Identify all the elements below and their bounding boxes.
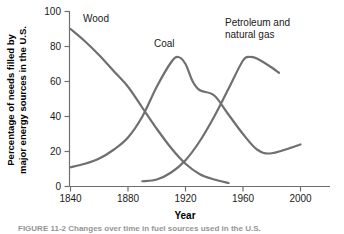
x-axis-title: Year [174, 210, 195, 221]
y-tick-label-60: 60 [50, 76, 62, 87]
y-axis-title: Percentage of needs filled by major ener… [5, 26, 28, 174]
x-tick-label-1920: 1920 [174, 193, 197, 204]
y-axis-title-line1: Percentage of needs filled by [5, 34, 16, 166]
y-tick-label-20: 20 [50, 146, 62, 157]
x-axis-ticks: 1840 1880 1920 1960 2000 [59, 187, 312, 205]
series-curves [71, 29, 301, 183]
series-label-coal: Coal [154, 38, 175, 49]
energy-sources-line-chart: Percentage of needs filled by major ener… [0, 0, 344, 234]
x-tick-label-1880: 1880 [117, 193, 140, 204]
figure-caption: FIGURE 11-2 Changes over time in fuel so… [0, 225, 344, 234]
y-tick-label-0: 0 [55, 181, 61, 192]
x-tick-label-1840: 1840 [59, 193, 82, 204]
y-tick-label-40: 40 [50, 111, 62, 122]
x-tick-label-2000: 2000 [289, 193, 312, 204]
y-tick-label-100: 100 [44, 6, 61, 17]
y-tick-label-80: 80 [50, 41, 62, 52]
x-tick-label-1960: 1960 [232, 193, 255, 204]
series-curve-coal [71, 57, 301, 167]
y-axis-ticks: 100 80 60 40 20 0 [44, 6, 69, 192]
chart-svg: Percentage of needs filled by major ener… [0, 0, 344, 234]
y-axis-title-line2: major energy sources in the U.S. [17, 26, 28, 174]
series-label-petroleum-line2: natural gas [225, 29, 274, 40]
figure-caption-text: FIGURE 11-2 Changes over time in fuel so… [18, 225, 261, 233]
series-label-petroleum-line1: Petroleum and [225, 17, 290, 28]
series-label-wood: Wood [83, 13, 109, 24]
